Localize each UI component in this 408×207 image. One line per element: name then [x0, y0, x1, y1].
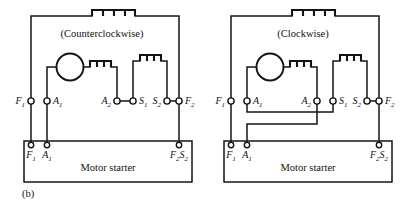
- terminal-f2[interactable]: [376, 98, 382, 104]
- label-starter-f1: F1: [25, 149, 36, 163]
- crossover-a2-to-a1-starter: [247, 101, 317, 141]
- series-right-lead: [361, 61, 367, 101]
- starter-terminal-a1[interactable]: [44, 142, 49, 147]
- terminal-s2[interactable]: [364, 98, 370, 104]
- label-terminal-f2: F2: [384, 95, 395, 109]
- armature-circle-icon: [257, 54, 284, 81]
- terminal-a2[interactable]: [114, 98, 120, 104]
- starter-terminal-f1[interactable]: [228, 142, 233, 147]
- label-terminal-a2: A2: [100, 95, 111, 109]
- shunt-field-coil-icon: [292, 10, 335, 16]
- label-terminal-a1: A1: [52, 95, 63, 109]
- armature-to-a2: [311, 67, 317, 101]
- armature-series-coil-icon: [90, 61, 111, 67]
- series-field-coil-icon: [140, 55, 161, 61]
- terminal-s1[interactable]: [130, 98, 136, 104]
- label-terminal-s1: S1: [339, 95, 348, 109]
- armature-circle-icon: [57, 54, 84, 81]
- starter-terminal-a1[interactable]: [244, 142, 249, 147]
- label-terminal-s1: S1: [139, 95, 148, 109]
- terminal-a1[interactable]: [44, 98, 50, 104]
- label-starter-f2s2: F2S2: [169, 149, 189, 163]
- top-rail-right-riser: [335, 16, 379, 101]
- label-terminal-f1: F1: [14, 95, 25, 109]
- label-terminal-s2: S2: [353, 95, 362, 109]
- motor-starter-label: Motor starter: [280, 162, 336, 173]
- label-terminal-s2: S2: [153, 95, 162, 109]
- label-terminal-a2: A2: [300, 95, 311, 109]
- terminal-f2[interactable]: [176, 98, 182, 104]
- terminal-f1[interactable]: [28, 98, 34, 104]
- terminal-f1[interactable]: [228, 98, 234, 104]
- diagram-counterclockwise: (Counterclockwise) F1 A1: [0, 0, 204, 207]
- label-starter-a1: A1: [41, 149, 52, 163]
- motor-starter-label: Motor starter: [80, 162, 136, 173]
- diagram-title-counterclockwise: (Counterclockwise): [61, 28, 144, 40]
- label-starter-f1: F1: [225, 149, 236, 163]
- label-terminal-f1: F1: [214, 95, 225, 109]
- series-right-lead: [161, 61, 167, 101]
- terminal-s2[interactable]: [164, 98, 170, 104]
- series-field-coil-icon: [340, 55, 361, 61]
- diagram-clockwise: (Clockwise) F1 A1 A: [204, 0, 408, 207]
- label-terminal-f2: F2: [184, 95, 195, 109]
- armature-to-a2: [111, 67, 117, 101]
- label-starter-a1: A1: [241, 149, 252, 163]
- terminal-s1[interactable]: [330, 98, 336, 104]
- armature-series-coil-icon: [290, 61, 311, 67]
- starter-terminal-f2s2[interactable]: [376, 142, 381, 147]
- label-starter-f2s2: F2S2: [369, 149, 389, 163]
- label-terminal-a1: A1: [252, 95, 263, 109]
- diagram-title-clockwise: (Clockwise): [277, 28, 329, 40]
- starter-terminal-f2s2[interactable]: [176, 142, 181, 147]
- shunt-field-coil-icon: [92, 10, 135, 16]
- terminal-a1[interactable]: [244, 98, 250, 104]
- terminal-a2[interactable]: [314, 98, 320, 104]
- starter-terminal-f1[interactable]: [28, 142, 33, 147]
- figure-b: (Counterclockwise) F1 A1: [0, 0, 408, 207]
